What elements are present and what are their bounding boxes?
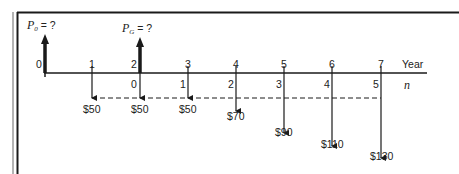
year-tick-2: 2 — [131, 58, 137, 70]
n-tick-4: 4 — [324, 78, 330, 90]
n-tick-0: 0 — [131, 78, 137, 90]
n-tick-2: 2 — [228, 78, 234, 90]
amount-year-3: $50 — [179, 103, 197, 115]
amount-year-5: $90 — [275, 126, 293, 138]
amount-year-6: $110 — [321, 138, 344, 150]
n-tick-1: 1 — [180, 78, 186, 90]
pg-label: PG = ? — [121, 21, 152, 36]
cash-flow-amounts: $50 $50 $50 $70 $90 $110 $130 — [83, 103, 394, 162]
pg-arrow — [136, 37, 144, 73]
year-tick-labels: 0 1 2 3 4 5 6 7 Year — [36, 58, 424, 70]
year-axis-label: Year — [402, 58, 424, 70]
n-tick-3: 3 — [276, 78, 282, 90]
amount-year-4: $70 — [227, 110, 245, 122]
n-tick-5: 5 — [373, 78, 379, 90]
amount-year-7: $130 — [370, 150, 394, 162]
year-tick-0: 0 — [36, 58, 42, 70]
n-tick-labels: 0 1 2 3 4 5 n — [131, 78, 410, 92]
cash-flow-diagram: P0 = ? PG = ? 0 1 2 3 4 5 6 7 Year 0 1 2… — [0, 0, 459, 174]
amount-year-2: $50 — [131, 103, 149, 115]
p0-label: P0 = ? — [26, 18, 56, 33]
amount-year-1: $50 — [83, 103, 101, 115]
n-axis-label: n — [404, 78, 410, 92]
